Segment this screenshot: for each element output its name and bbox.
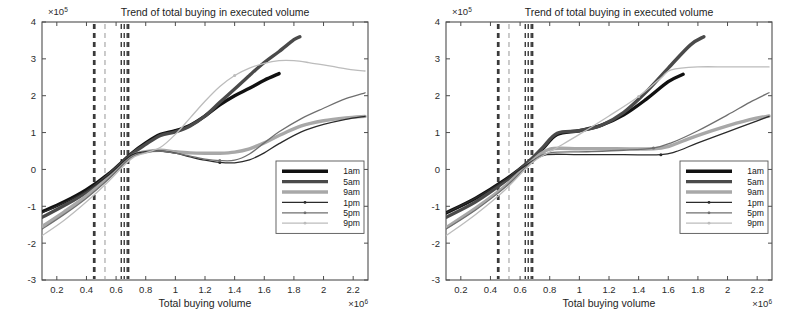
x-tick-label: 0.8	[139, 284, 152, 295]
legend: 1am5am9am1pm5pm9pm	[680, 161, 768, 233]
legend-label-1am: 1am	[747, 166, 764, 176]
x-tick-label: 1.6	[258, 284, 271, 295]
x-tick-label: 0.6	[109, 284, 122, 295]
x-tick-label: 1	[577, 284, 582, 295]
x-tick-label: 0.4	[484, 284, 497, 295]
legend-marker-5pm	[304, 211, 307, 214]
y-tick-label: -1	[28, 201, 36, 212]
y-tick-label: 2	[435, 90, 440, 101]
y-tick-label: -1	[432, 201, 440, 212]
y-tick-label: 4	[435, 16, 440, 27]
x-tick-label: 1.4	[632, 284, 645, 295]
legend-label-9pm: 9pm	[747, 218, 764, 228]
x-tick-label: 1.2	[602, 284, 615, 295]
chart-panel-left: 0.20.40.60.811.21.41.61.822.2-3-2-101234…	[0, 0, 404, 320]
series-marker-5pm	[652, 147, 655, 150]
x-tick-label: 0.8	[543, 284, 556, 295]
x-tick-label: 0.2	[454, 284, 467, 295]
plot-svg-left: 0.20.40.60.811.21.41.61.822.2-3-2-101234…	[0, 0, 404, 320]
legend-label-9am: 9am	[747, 187, 764, 197]
y-tick-label: 3	[31, 53, 36, 64]
x-axis-exponent: ×106	[752, 298, 772, 310]
legend-marker-1pm	[708, 201, 711, 204]
legend-label-1pm: 1pm	[343, 198, 360, 208]
chart-title: Trend of total buying in executed volume	[525, 6, 714, 18]
series-marker-5pm	[218, 159, 221, 162]
series-marker-9pm	[233, 74, 236, 77]
x-axis-label: Total buying volume	[159, 297, 252, 309]
y-tick-label: 1	[31, 127, 36, 138]
legend-label-5am: 5am	[343, 177, 360, 187]
y-tick-label: -3	[28, 274, 36, 285]
plot-frame	[42, 22, 368, 280]
legend-marker-1pm	[304, 201, 307, 204]
y-tick-label: 0	[31, 164, 36, 175]
x-axis-exponent: ×106	[348, 298, 368, 310]
series-marker-9pm	[637, 95, 640, 98]
x-tick-label: 0.4	[80, 284, 93, 295]
legend-label-5am: 5am	[747, 177, 764, 187]
plot-svg-right: 0.20.40.60.811.21.41.61.822.2-3-2-101234…	[404, 0, 808, 320]
x-tick-label: 1.8	[691, 284, 704, 295]
y-tick-label: 1	[435, 127, 440, 138]
series-marker-1pm	[659, 153, 662, 156]
y-tick-label: -2	[28, 238, 36, 249]
x-tick-label: 2	[321, 284, 326, 295]
legend-marker-9pm	[708, 222, 711, 225]
x-tick-label: 2.2	[347, 284, 360, 295]
legend-marker-5pm	[708, 211, 711, 214]
x-tick-label: 2.2	[751, 284, 764, 295]
x-tick-label: 1.8	[287, 284, 300, 295]
legend-label-9am: 9am	[343, 187, 360, 197]
y-tick-label: 0	[435, 164, 440, 175]
x-tick-label: 2	[725, 284, 730, 295]
x-tick-label: 1.2	[198, 284, 211, 295]
legend-label-9pm: 9pm	[343, 218, 360, 228]
y-tick-label: 3	[435, 53, 440, 64]
x-tick-label: 1	[173, 284, 178, 295]
legend: 1am5am9am1pm5pm9pm	[276, 161, 364, 233]
figure-container: 0.20.40.60.811.21.41.61.822.2-3-2-101234…	[0, 0, 808, 320]
x-axis-label: Total buying volume	[563, 297, 656, 309]
legend-label-1pm: 1pm	[747, 198, 764, 208]
x-tick-label: 0.6	[513, 284, 526, 295]
x-tick-label: 1.6	[662, 284, 675, 295]
legend-label-1am: 1am	[343, 166, 360, 176]
chart-title: Trend of total buying in executed volume	[121, 6, 310, 18]
y-axis-exponent: ×105	[452, 6, 472, 18]
y-axis-exponent: ×105	[48, 6, 68, 18]
x-tick-label: 1.4	[228, 284, 241, 295]
legend-label-5pm: 5pm	[747, 208, 764, 218]
x-tick-label: 0.2	[50, 284, 63, 295]
legend-marker-9pm	[304, 222, 307, 225]
legend-label-5pm: 5pm	[343, 208, 360, 218]
y-tick-label: 4	[31, 16, 36, 27]
y-tick-label: 2	[31, 90, 36, 101]
y-tick-label: -2	[432, 238, 440, 249]
chart-panel-right: 0.20.40.60.811.21.41.61.822.2-3-2-101234…	[404, 0, 808, 320]
y-tick-label: -3	[432, 274, 440, 285]
